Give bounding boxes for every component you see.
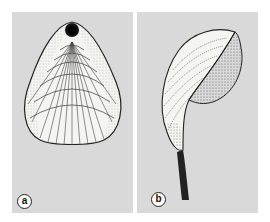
shell-lateral-illustration xyxy=(137,12,258,213)
panel-label-b: b xyxy=(151,192,166,207)
panel-label-a: a xyxy=(17,194,32,209)
figure-panel-a: a xyxy=(12,12,133,213)
figure-panel-b: b xyxy=(137,12,258,213)
shell-dorsal-illustration xyxy=(12,12,133,213)
